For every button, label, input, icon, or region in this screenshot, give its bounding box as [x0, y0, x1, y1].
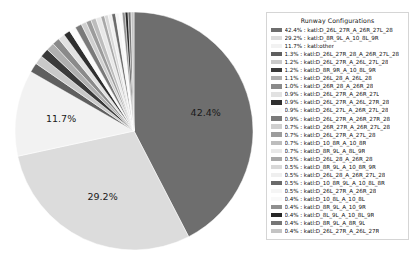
legend-row: 0.9% : katl:D_26L_27L_A_26R_27L_28: [270, 106, 405, 114]
legend-row: 0.4% : katl:D_26L_27R_A_26L_27R: [270, 227, 405, 235]
legend-color-swatch: [271, 28, 282, 32]
legend-row: 11.7% : katl:other: [270, 42, 405, 50]
legend-row: 0.4% : katl:D_8L_9L_A_10_8L_9R: [270, 211, 405, 219]
legend-entry-label: 1.1% : katl:D_26L_28_A_26L_28: [285, 74, 372, 82]
legend-row: 0.9% : katl:D_26L_27R_A_26L_27R_28: [270, 98, 405, 106]
legend-entry-label: 0.9% : katl:D_26L_27R_A_26R_27L: [285, 90, 380, 98]
legend-entry-label: 0.5% : katl:D_26L_28_A_26R_28: [285, 155, 373, 163]
legend-color-swatch: [271, 100, 282, 104]
legend-row: 0.4% : katl:D_10_8L_A_10_8L: [270, 195, 405, 203]
legend-entry-label: 0.4% : katl:D_10_8L_A_10_8L: [285, 195, 365, 203]
legend-row: 1.2% : katl:D_26L_27R_A_26L_27L_28: [270, 58, 405, 66]
pie-slice-percent-label: 11.7%: [46, 113, 76, 124]
legend-title: Runway Configurations: [270, 17, 405, 24]
legend-entry-label: 0.7% : katl:D_26R_27R_A_26R_27L_28: [285, 123, 390, 131]
legend-row: 0.7% : katl:D_26R_27R_A_26R_27L_28: [270, 123, 405, 131]
legend-color-swatch: [271, 44, 282, 48]
legend-row: 0.7% : katl:D_10_8R_A_10_8R: [270, 139, 405, 147]
legend-row: 0.7% : katl:D_26L_27R_A_27L_28: [270, 131, 405, 139]
legend-row: 1.1% : katl:D_26L_28_A_26L_28: [270, 74, 405, 82]
legend-entry-label: 1.3% : katl:D_26L_27R_28_A_26R_27L_28: [285, 50, 399, 58]
legend-row: 0.5% : katl:D_26L_28_A_26R_27L_28: [270, 171, 405, 179]
legend-color-swatch: [271, 108, 282, 112]
legend-color-swatch: [271, 205, 282, 209]
legend-entry-label: 0.9% : katl:D_26L_27L_A_26R_27L_28: [285, 106, 389, 114]
legend-entry-label: 11.7% : katl:other: [285, 42, 334, 50]
legend-color-swatch: [271, 92, 282, 96]
legend-row-list: 42.4% : katl:D_26L_27R_A_26R_27L_2829.2%…: [270, 26, 405, 235]
legend-row: 42.4% : katl:D_26L_27R_A_26R_27L_28: [270, 26, 405, 34]
legend-color-swatch: [271, 189, 282, 193]
legend-color-swatch: [271, 116, 282, 120]
legend-entry-label: 0.7% : katl:D_26L_27R_A_27L_28: [285, 131, 376, 139]
legend-color-swatch: [271, 149, 282, 153]
legend-row: 0.5% : katl:D_10_8R_9L_A_10_8L_8R: [270, 179, 405, 187]
legend-color-swatch: [271, 181, 282, 185]
legend-entry-label: 0.4% : katl:D_8L_9L_A_10_8L_9R: [285, 211, 375, 219]
legend-entry-label: 0.4% : katl:D_8R_9L_A_8R_9L: [285, 219, 366, 227]
legend-color-swatch: [271, 52, 282, 56]
legend-row: 0.7% : katl:D_8R_9L_A_8L_9R: [270, 147, 405, 155]
legend-entry-label: 0.5% : katl:D_26L_27R_A_26R_28: [285, 187, 377, 195]
pie-chart-svg: 42.4%29.2%11.7%: [8, 6, 260, 256]
pie-slice-percent-label: 29.2%: [87, 191, 117, 202]
legend-entry-label: 0.5% : katl:D_10_8R_9L_A_10_8L_8R: [285, 179, 385, 187]
legend-row: 0.9% : katl:D_26L_27R_A_26R_27L: [270, 90, 405, 98]
legend-color-swatch: [271, 221, 282, 225]
legend-color-swatch: [271, 197, 282, 201]
legend-color-swatch: [271, 229, 282, 233]
legend-row: 1.3% : katl:D_26L_27R_28_A_26R_27L_28: [270, 50, 405, 58]
legend-row: 0.9% : katl:D_26L_27R_A_26R_27R_28: [270, 115, 405, 123]
legend-entry-label: 0.4% : katl:D_8R_9L_A_10_9R: [285, 203, 366, 211]
legend-color-swatch: [271, 84, 282, 88]
legend-entry-label: 1.0% : katl:D_26R_28_A_26R_28: [285, 82, 374, 90]
legend-row: 1.2% : katl:D_8R_9R_A_10_8L_9R: [270, 66, 405, 74]
legend-row: 0.5% : katl:D_26L_28_A_26R_28: [270, 155, 405, 163]
legend-entry-label: 0.9% : katl:D_26L_27R_A_26L_27R_28: [285, 98, 390, 106]
legend-entry-label: 1.2% : katl:D_8R_9R_A_10_8L_9R: [285, 66, 376, 74]
legend-color-swatch: [271, 213, 282, 217]
legend-entry-label: 0.4% : katl:D_26L_27R_A_26L_27R: [285, 227, 380, 235]
legend-row: 0.4% : katl:D_8R_9L_A_10_9R: [270, 203, 405, 211]
legend-row: 0.5% : katl:D_26L_27R_A_26R_28: [270, 187, 405, 195]
legend-entry-label: 0.5% : katl:D_8R_9L_A_10_8R_9R: [285, 163, 376, 171]
chart-legend: Runway Configurations 42.4% : katl:D_26L…: [266, 12, 409, 240]
legend-color-swatch: [271, 141, 282, 145]
legend-entry-label: 0.9% : katl:D_26L_27R_A_26R_27R_28: [285, 115, 390, 123]
pie-slice-percent-label: 42.4%: [191, 107, 221, 118]
legend-color-swatch: [271, 124, 282, 128]
pie-slice-group: [15, 12, 253, 250]
legend-color-swatch: [271, 76, 282, 80]
pie-chart-figure: 42.4%29.2%11.7% Runway Configurations 42…: [0, 0, 413, 262]
legend-row: 0.5% : katl:D_8R_9L_A_10_8R_9R: [270, 163, 405, 171]
legend-color-swatch: [271, 68, 282, 72]
legend-entry-label: 1.2% : katl:D_26L_27R_A_26L_27L_28: [285, 58, 389, 66]
pie-chart-plot-area: 42.4%29.2%11.7%: [8, 6, 260, 256]
legend-color-swatch: [271, 60, 282, 64]
legend-color-swatch: [271, 165, 282, 169]
legend-row: 0.4% : katl:D_8R_9L_A_8R_9L: [270, 219, 405, 227]
legend-entry-label: 0.5% : katl:D_26L_28_A_26R_27L_28: [285, 171, 386, 179]
legend-row: 29.2% : katl:D_8R_9L_A_10_8L_9R: [270, 34, 405, 42]
legend-row: 1.0% : katl:D_26R_28_A_26R_28: [270, 82, 405, 90]
legend-color-swatch: [271, 36, 282, 40]
legend-entry-label: 0.7% : katl:D_8R_9L_A_8L_9R: [285, 147, 366, 155]
legend-color-swatch: [271, 173, 282, 177]
legend-color-swatch: [271, 132, 282, 136]
legend-entry-label: 0.7% : katl:D_10_8R_A_10_8R: [285, 139, 367, 147]
legend-entry-label: 29.2% : katl:D_8R_9L_A_10_8L_9R: [285, 34, 379, 42]
legend-entry-label: 42.4% : katl:D_26L_27R_A_26R_27L_28: [285, 26, 393, 34]
legend-color-swatch: [271, 157, 282, 161]
